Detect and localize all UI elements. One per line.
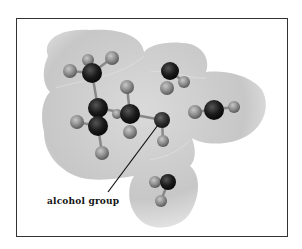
carbon-atom	[82, 63, 102, 83]
oxygen-atom	[154, 112, 170, 128]
alcohol-group-label: alcohol group	[47, 196, 119, 206]
hydrogen-atom	[120, 80, 134, 94]
carbon-atom	[160, 174, 176, 190]
hydrogen-atom	[157, 135, 169, 147]
hydrogen-atom	[63, 64, 77, 78]
carbon-atom	[88, 116, 108, 136]
hydrogen-atom	[228, 101, 240, 113]
molecule-diagram	[0, 0, 302, 249]
carbon-atom	[204, 100, 224, 120]
hydrogen-atom	[95, 146, 109, 160]
hydrogen-atom	[123, 125, 137, 139]
hydrogen-atom	[160, 81, 174, 95]
carbon-atom	[120, 104, 140, 124]
hydrogen-atom	[188, 105, 202, 119]
carbon-atom	[161, 62, 179, 80]
hydrogen-atom	[70, 115, 84, 129]
carbon-atom	[88, 98, 108, 118]
hydrogen-atom	[178, 76, 190, 88]
hydrogen-atom	[149, 176, 161, 188]
hydrogen-atom	[155, 195, 167, 207]
hydrogen-atom	[105, 51, 119, 65]
